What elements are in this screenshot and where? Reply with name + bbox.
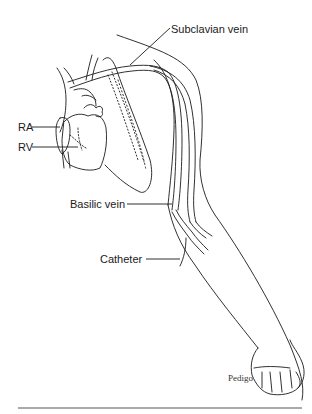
upper-arm-back	[154, 60, 174, 205]
jugular-vein	[57, 68, 66, 132]
label-rv: RV	[18, 141, 33, 153]
illustrator-credit: Pedigo	[228, 373, 253, 383]
lung-outline	[103, 58, 152, 193]
shoulder-outline	[117, 35, 303, 400]
label-catheter: Catheter	[100, 253, 142, 265]
subclavian-vein-line	[68, 65, 182, 210]
label-ra: RA	[18, 121, 33, 133]
label-basilic-vein: Basilic vein	[70, 198, 125, 210]
label-subclavian-vein: Subclavian vein	[171, 23, 248, 35]
medical-diagram: Subclavian vein RA RV Basilic vein Cathe…	[0, 0, 312, 414]
anatomy-illustration	[0, 0, 312, 414]
subclavian-leader	[130, 28, 170, 65]
